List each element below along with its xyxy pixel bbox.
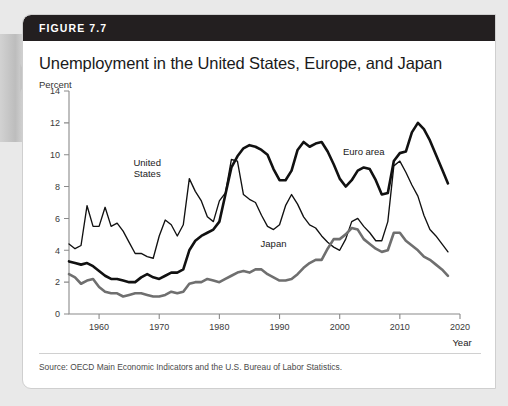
x-tick-label: 1960: [89, 322, 109, 332]
x-tick-label: 1980: [209, 322, 229, 332]
y-axis-title: Percent: [39, 79, 72, 90]
source-divider: [39, 353, 481, 354]
series-annotation-united-states: United: [133, 157, 160, 168]
chart-container: Percent 02468101214196019701980199020002…: [23, 79, 495, 347]
y-tick-label: 4: [55, 246, 60, 256]
x-tick-label: 2000: [330, 322, 350, 332]
figure-title: Unemployment in the United States, Europ…: [23, 41, 495, 73]
chart-series-lines: [69, 123, 448, 297]
y-tick-label: 2: [55, 277, 60, 287]
series-annotation-euro-area: Euro area: [343, 146, 385, 157]
chart-ticks: 024681012141960197019801990200020102020: [50, 86, 470, 332]
x-tick-label: 2020: [450, 322, 470, 332]
page-edge-tab: [0, 34, 22, 142]
x-tick-label: 1990: [270, 322, 290, 332]
y-tick-label: 10: [50, 150, 60, 160]
x-tick-label: 1970: [149, 322, 169, 332]
figure-header-band: FIGURE 7.7: [23, 15, 495, 41]
figure-number-label: FIGURE 7.7: [39, 22, 107, 34]
series-annotation-united-states: States: [134, 168, 161, 179]
x-axis-title: Year: [452, 337, 471, 347]
y-tick-label: 12: [50, 118, 60, 128]
series-line-japan: [69, 228, 448, 296]
series-annotation-japan: Japan: [261, 238, 287, 249]
series-line-euro-area: [69, 123, 448, 282]
y-tick-label: 6: [55, 214, 60, 224]
source-note: Source: OECD Main Economic Indicators an…: [39, 362, 342, 372]
figure-card: FIGURE 7.7 Unemployment in the United St…: [22, 14, 496, 389]
unemployment-line-chart: 024681012141960197019801990200020102020 …: [23, 79, 496, 347]
x-tick-label: 2010: [390, 322, 410, 332]
y-tick-label: 0: [55, 309, 60, 319]
y-tick-label: 8: [55, 182, 60, 192]
